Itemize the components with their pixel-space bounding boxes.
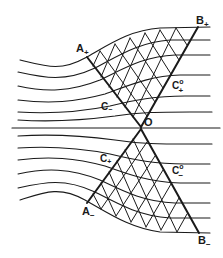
upper-mesh-c-minus (100, 28, 187, 116)
lower-streamlines (18, 135, 212, 233)
label-C0-plus: Co+ (172, 78, 184, 95)
label-B-minus: B− (198, 234, 211, 249)
characteristics-diagram: A+ B+ C− Co+ O C+ Co− A− B− (0, 0, 223, 258)
label-C-minus-upper: C− (101, 101, 112, 113)
label-O: O (144, 116, 153, 128)
label-A-minus: A− (82, 205, 95, 220)
label-C-plus-lower: C+ (100, 153, 111, 165)
label-C0-minus: Co− (172, 163, 184, 180)
label-A-plus: A+ (76, 42, 89, 57)
